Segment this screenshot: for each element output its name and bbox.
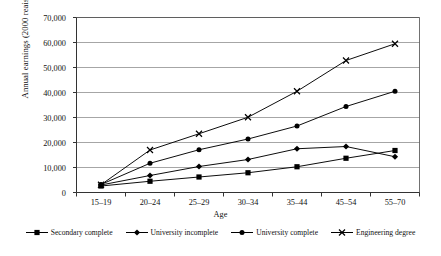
data-point-square <box>34 230 39 235</box>
legend-item[interactable]: University incomplete <box>126 228 219 237</box>
legend-item[interactable]: Secondary complete <box>26 228 113 237</box>
chart-legend: Secondary completeUniversity incompleteU… <box>0 228 441 237</box>
legend-label: Engineering degree <box>356 229 415 237</box>
x-tick-label: 45–54 <box>336 198 357 207</box>
legend-label: Secondary complete <box>51 229 113 237</box>
data-point-circle <box>240 230 245 235</box>
x-tick-label: 20–24 <box>140 198 161 207</box>
x-tick-label: 55–70 <box>385 198 406 207</box>
legend-item[interactable]: Engineering degree <box>331 228 415 237</box>
x-tick-label: 25–29 <box>189 198 210 207</box>
legend-label: University complete <box>256 229 318 237</box>
x-tick-label: 35–44 <box>287 198 308 207</box>
x-tick-label: 15–19 <box>91 198 112 207</box>
legend-marker-diamond-icon <box>126 228 148 237</box>
data-point-diamond <box>133 229 139 235</box>
legend-item[interactable]: University complete <box>231 228 318 237</box>
legend-label: University incomplete <box>151 229 219 237</box>
legend-marker-square-icon <box>26 228 48 237</box>
x-tick-label: 30–34 <box>238 198 259 207</box>
legend-marker-circle-icon <box>231 228 253 237</box>
chart-container: Annual earnings (2000 reais) 010,00020,0… <box>0 0 441 256</box>
legend-marker-cross-icon <box>331 228 353 237</box>
x-axis-title: Age <box>0 210 441 219</box>
